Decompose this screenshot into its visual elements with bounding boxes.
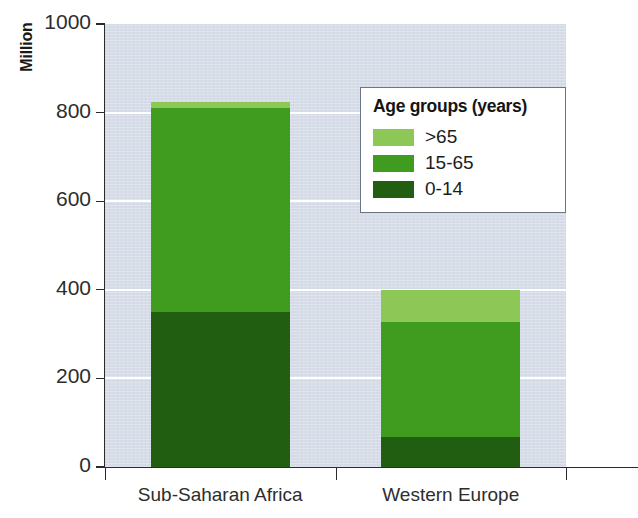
- legend-label: >65: [425, 126, 457, 148]
- bar-segment-0-14[interactable]: [381, 437, 520, 467]
- legend-label: 15-65: [425, 152, 474, 174]
- legend-swatch: [373, 181, 414, 198]
- x-tick-mark: [566, 468, 567, 480]
- x-tick-mark: [336, 468, 337, 480]
- chart-canvas: Million 10008006004002000 Sub-Saharan Af…: [0, 0, 638, 518]
- legend: Age groups (years) >6515-650-14: [360, 87, 566, 213]
- bar-sub-saharan-africa[interactable]: [151, 24, 290, 467]
- x-tick-mark: [105, 468, 106, 480]
- y-axis-title: Million: [18, 2, 36, 92]
- y-tick-mark: [96, 289, 105, 290]
- bar-segment--65[interactable]: [151, 102, 290, 108]
- legend-swatch: [373, 129, 414, 146]
- bar-segment-0-14[interactable]: [151, 312, 290, 467]
- legend-item[interactable]: 0-14: [373, 176, 555, 202]
- y-tick-label: 600: [56, 187, 91, 211]
- bar-segment-15-65[interactable]: [151, 108, 290, 312]
- y-tick-mark: [96, 466, 105, 467]
- legend-item[interactable]: >65: [373, 124, 555, 150]
- x-axis-line: [104, 467, 638, 468]
- x-tick-label: Western Europe: [331, 484, 571, 506]
- y-tick-label: 200: [56, 364, 91, 388]
- y-tick-label: 800: [56, 99, 91, 123]
- y-axis-line: [104, 24, 105, 468]
- legend-label: 0-14: [425, 178, 463, 200]
- y-tick-mark: [96, 112, 105, 113]
- legend-title: Age groups (years): [373, 96, 555, 117]
- y-tick-label: 400: [56, 276, 91, 300]
- bar-segment-15-65[interactable]: [381, 322, 520, 437]
- y-tick-label: 0: [79, 453, 91, 477]
- y-tick-mark: [96, 201, 105, 202]
- x-tick-label: Sub-Saharan Africa: [100, 484, 340, 506]
- y-tick-mark: [96, 378, 105, 379]
- legend-item[interactable]: 15-65: [373, 150, 555, 176]
- y-tick-label: 1000: [44, 10, 91, 34]
- bar-segment--65[interactable]: [381, 290, 520, 322]
- legend-swatch: [373, 155, 414, 172]
- y-tick-mark: [96, 23, 105, 24]
